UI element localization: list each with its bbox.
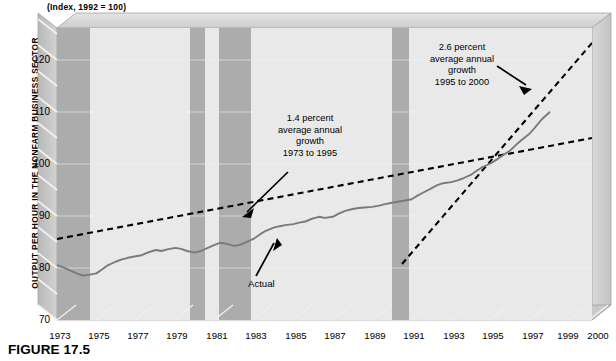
y-tick-110: 110	[24, 106, 50, 117]
y-tick-100: 100	[24, 158, 50, 169]
annotation-1-line-4: 1973 to 1995	[254, 148, 366, 160]
annotation-2-line-1: 2.6 percent	[406, 42, 518, 54]
annotation-1-line-3: growth	[254, 136, 366, 148]
x-tick-1993: 1993	[434, 330, 474, 341]
box-top-face	[57, 13, 611, 28]
x-tick-1983: 1983	[236, 330, 276, 341]
annotation-2-line-2: average annual	[406, 54, 518, 66]
x-tick-1987: 1987	[315, 330, 355, 341]
box-right-wall	[592, 13, 611, 320]
y-tick-120: 120	[24, 54, 50, 65]
recession-band-1980	[190, 28, 205, 320]
figure-caption: FIGURE 17.5	[8, 342, 90, 357]
annotation-2-line-3: growth	[406, 65, 518, 77]
x-tick-1977: 1977	[118, 330, 158, 341]
annotation-trend-1995-2000: 2.6 percent average annual growth 1995 t…	[406, 42, 518, 88]
x-tick-1979: 1979	[157, 330, 197, 341]
x-tick-1989: 1989	[355, 330, 395, 341]
x-tick-1995: 1995	[473, 330, 513, 341]
x-tick-1981: 1981	[197, 330, 237, 341]
x-tick-1973: 1973	[40, 330, 80, 341]
annotation-trend-1973-1995: 1.4 percent average annual growth 1973 t…	[254, 113, 366, 159]
y-tick-70: 70	[24, 314, 50, 325]
y-tick-90: 90	[24, 210, 50, 221]
x-tick-1991: 1991	[394, 330, 434, 341]
y-tick-80: 80	[24, 262, 50, 273]
x-tick-1997: 1997	[513, 330, 553, 341]
annotation-actual: Actual	[248, 278, 308, 289]
x-tick-1975: 1975	[79, 330, 119, 341]
annotation-1-line-1: 1.4 percent	[254, 113, 366, 125]
chart-canvas	[0, 0, 616, 361]
annotation-2-line-4: 1995 to 2000	[406, 77, 518, 89]
x-tick-2000: 2000	[578, 330, 616, 341]
figure-17-5: (Index, 1992 = 100) OUTPUT PER HOUR IN T…	[0, 0, 616, 361]
x-tick-1985: 1985	[276, 330, 316, 341]
recession-band-1981-1982	[219, 28, 251, 320]
annotation-1-line-2: average annual	[254, 125, 366, 137]
